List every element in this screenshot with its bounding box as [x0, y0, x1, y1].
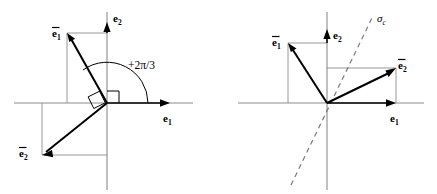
svg-text:+2π/3: +2π/3 [128, 59, 155, 71]
left-vector-e2-bar [46, 103, 107, 152]
left-arrowhead-e1-axis [160, 99, 170, 106]
right-arrowhead-e2-axis [323, 29, 330, 39]
right-label-e2-axis: e2 [333, 29, 342, 44]
left-label-e2-axis: e2 [113, 12, 122, 27]
svg-text:e2: e2 [113, 12, 122, 27]
svg-text:e2: e2 [333, 29, 342, 44]
svg-text:e1: e1 [52, 27, 61, 42]
right-arrowhead-e1-bar [288, 43, 297, 52]
left-arrowhead-e1-bar [67, 33, 75, 42]
right-label-e1-axis: e1 [390, 112, 399, 127]
right-label-e1-bar: e1 [272, 36, 281, 51]
svg-text:e2: e2 [19, 147, 28, 162]
right-arrowhead-e2-bar [385, 68, 396, 77]
right-vector-e2-bar [327, 72, 391, 103]
right-vector-e1-bar [291, 47, 327, 103]
figure-root: e2 e1 e1 e2 [0, 0, 437, 194]
right-label-sigma-c: σc [377, 12, 386, 27]
svg-text:e1: e1 [272, 36, 281, 51]
left-arrowhead-e2-axis [103, 22, 110, 32]
svg-text:e1: e1 [163, 112, 172, 127]
left-label-e1-bar: e1 [52, 27, 61, 42]
svg-text:e2: e2 [398, 59, 407, 74]
left-label-angle: +2π/3 [128, 59, 155, 71]
left-right-angle-axes [107, 91, 119, 103]
right-label-e2-bar: e2 [398, 59, 407, 74]
diagram-canvas: e2 e1 e1 e2 [0, 0, 437, 194]
svg-text:e1: e1 [390, 112, 399, 127]
left-label-e1-axis: e1 [163, 112, 172, 127]
left-label-e2-bar: e2 [19, 147, 28, 162]
right-panel: e2 e1 e1 e2 [238, 12, 424, 190]
left-panel: e2 e1 e1 e2 [14, 12, 193, 190]
svg-text:σc: σc [377, 12, 386, 27]
left-vector-e1-bar [70, 37, 107, 103]
right-arrowhead-e1-axis [386, 99, 396, 106]
